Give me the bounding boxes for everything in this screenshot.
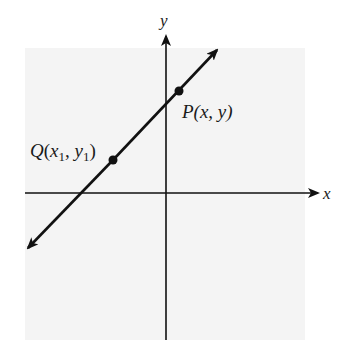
diagram-svg: x y P(x, y) Q(x1, y1) [0,0,348,356]
point-q-name: Q [30,140,44,161]
y-axis-label: y [158,11,168,30]
plot-background [25,48,305,340]
point-p [175,87,184,96]
point-p-label: P(x, y) [181,101,233,123]
point-q-y: y [73,140,84,161]
point-q [109,156,118,165]
point-q-close-paren: ) [89,140,95,162]
coordinate-diagram: x y P(x, y) Q(x1, y1) [0,0,348,356]
x-axis-label: x [322,184,331,203]
point-p-name: P [181,101,194,122]
point-p-coords: (x, y) [194,101,233,123]
point-q-sep: , [65,140,75,161]
